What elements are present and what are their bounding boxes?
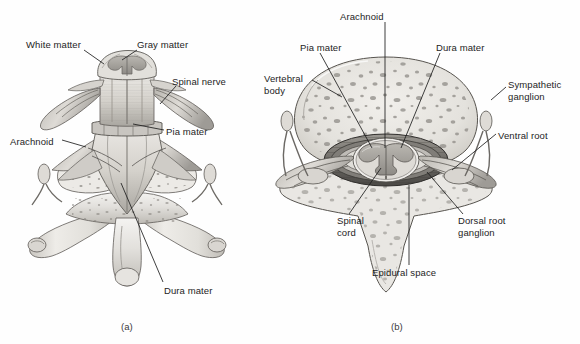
label-white-matter: White matter — [26, 39, 81, 51]
label-arachnoid-b: Arachnoid — [340, 11, 384, 23]
panel-a-caption: (a) — [121, 321, 133, 332]
leader-sympathetic-ganglion — [491, 87, 506, 100]
cord-cut-surface-a — [98, 51, 157, 80]
spinal-cord-b — [353, 138, 419, 182]
label-gray-matter: Gray matter — [137, 39, 188, 51]
sympathetic-ganglion-left — [281, 111, 293, 131]
leader-white-matter — [84, 50, 104, 64]
label-dorsal-root-ganglion: Dorsal root ganglion — [458, 215, 506, 238]
label-sympathetic-ganglion: Sympathetic ganglion — [508, 79, 561, 102]
sympathetic-ganglion-right — [480, 111, 492, 131]
label-pia-mater-a: Pia mater — [166, 126, 208, 138]
anatomy-illustration — [0, 0, 580, 344]
label-spinal-cord: Spinal cord — [337, 215, 364, 238]
dorsal-root-ganglion-left — [298, 168, 328, 184]
panel-b-caption: (b) — [391, 321, 403, 332]
label-epidural-space: Epidural space — [372, 267, 436, 279]
label-spinal-nerve: Spinal nerve — [172, 76, 226, 88]
panel-b-artwork — [276, 57, 496, 292]
spinal-cord-a — [100, 76, 154, 126]
label-arachnoid-a: Arachnoid — [10, 136, 54, 148]
figure-page: White matter Gray matter Spinal nerve Pi… — [0, 0, 580, 344]
label-dura-mater-a: Dura mater — [164, 285, 212, 297]
leader-arachnoid — [62, 140, 86, 147]
label-vertebral-body: Vertebral body — [264, 73, 303, 96]
label-pia-mater-b: Pia mater — [300, 42, 342, 54]
dorsal-root-ganglion-right — [444, 168, 474, 184]
label-ventral-root: Ventral root — [498, 130, 548, 142]
label-dura-mater-b: Dura mater — [436, 42, 484, 54]
